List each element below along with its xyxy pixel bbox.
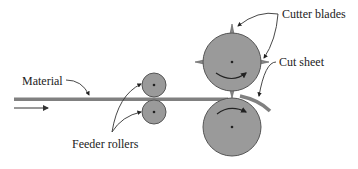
material-strip: [14, 98, 228, 102]
feeder-roller-top: [142, 73, 166, 97]
cutter-roller-bottom: [203, 98, 261, 156]
feeder-roller-bottom: [142, 100, 166, 124]
cutter-roller-top: [195, 24, 269, 98]
cutter-blade-leader-line-top: [238, 13, 278, 26]
feeder-rollers-label: Feeder rollers: [72, 138, 138, 150]
cut-sheet-leader-line: [259, 62, 276, 96]
feeder-leader-line-top: [112, 84, 141, 132]
material-label: Material: [22, 75, 63, 87]
cutter-blade-leader-line-side: [264, 14, 278, 58]
cutter-blades-label: Cutter blades: [282, 8, 346, 20]
cut-sheet-label: Cut sheet: [279, 56, 324, 68]
material-leader-line: [66, 80, 89, 95]
